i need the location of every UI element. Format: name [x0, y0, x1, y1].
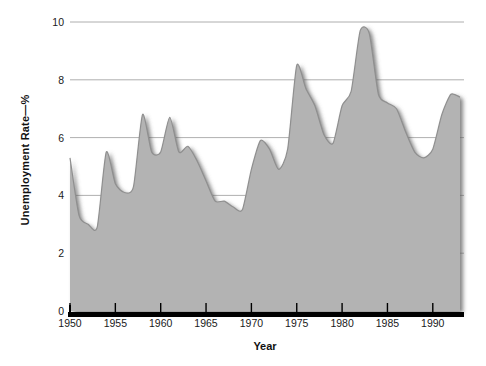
x-tick-label-1970: 1970 — [231, 318, 271, 329]
y-tick-label-6: 6 — [40, 133, 64, 144]
y-tick-label-10: 10 — [40, 17, 64, 28]
x-axis-title: Year — [70, 340, 460, 352]
x-axis-line — [68, 312, 464, 317]
x-tick-label-1950: 1950 — [50, 318, 90, 329]
x-tick-label-1985: 1985 — [367, 318, 407, 329]
x-tick-label-1955: 1955 — [95, 318, 135, 329]
x-tick-label-1960: 1960 — [141, 318, 181, 329]
x-tick-label-1990: 1990 — [413, 318, 453, 329]
x-tick-label-1975: 1975 — [277, 318, 317, 329]
y-tick-label-8: 8 — [40, 75, 64, 86]
unemployment-rate-area-chart: Unemployment Rate—% 0246810 195019551960… — [0, 0, 486, 366]
area-series-group — [70, 27, 460, 311]
chart-plot-area — [0, 0, 486, 366]
y-tick-label-2: 2 — [40, 248, 64, 259]
y-tick-label-0: 0 — [40, 306, 64, 317]
x-tick-label-1965: 1965 — [186, 318, 226, 329]
area-fill-unemployment-rate — [70, 27, 460, 311]
y-tick-label-4: 4 — [40, 190, 64, 201]
x-tick-label-1980: 1980 — [322, 318, 362, 329]
